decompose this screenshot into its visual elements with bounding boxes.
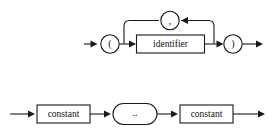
arrow-right-icon xyxy=(91,41,98,48)
identifier-list-diagram: ( , identifier xyxy=(0,0,277,70)
exit-rail-top xyxy=(242,41,263,48)
arrow-right-icon xyxy=(256,41,263,48)
arrow-right-icon xyxy=(129,41,136,48)
entry-rail-bottom xyxy=(10,111,35,118)
arrow-right-icon xyxy=(171,111,178,118)
diagram-canvas: ( , identifier xyxy=(0,0,277,137)
node-identifier-label: identifier xyxy=(153,39,189,49)
node-constant-left-label: constant xyxy=(48,109,80,119)
node-constant-right-label: constant xyxy=(191,109,223,119)
constant-range-diagram: constant .. constant xyxy=(0,70,277,137)
node-identifier[interactable]: identifier xyxy=(137,35,205,53)
arrow-right-icon xyxy=(28,111,35,118)
node-open-paren[interactable]: ( xyxy=(101,35,119,53)
rail-dots-to-constant xyxy=(157,111,178,118)
node-range-dots-label: .. xyxy=(133,107,138,118)
entry-rail-top xyxy=(84,41,98,48)
arrow-right-icon xyxy=(104,111,111,118)
rail-constant-to-dots xyxy=(90,111,111,118)
exit-rail-bottom xyxy=(233,111,265,118)
node-close-paren-label: ) xyxy=(231,38,234,50)
node-constant-left[interactable]: constant xyxy=(37,105,90,123)
node-range-dots[interactable]: .. xyxy=(113,104,157,125)
node-constant-right[interactable]: constant xyxy=(180,105,233,123)
node-comma-label: , xyxy=(169,15,172,26)
arrow-right-icon xyxy=(258,111,265,118)
node-close-paren[interactable]: ) xyxy=(224,35,242,53)
node-comma[interactable]: , xyxy=(161,11,188,29)
arrow-right-icon xyxy=(217,41,224,48)
arrow-left-icon xyxy=(181,17,188,24)
rail-paren-to-identifier xyxy=(119,41,136,48)
